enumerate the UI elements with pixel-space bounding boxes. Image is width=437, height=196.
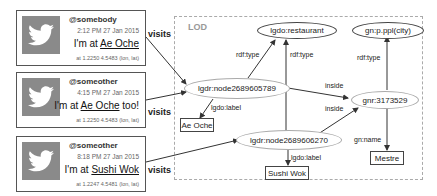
literal-sushi-wok: Sushi Wok [265,166,309,180]
edge-label-lgdo-label: lgdo:label [211,104,241,111]
edge-label-inside: inside [325,105,343,112]
literal-mestre: Mestre [370,151,404,165]
edge-label-visits: visits [148,29,171,39]
node-lgdr-node2689606270: lgdr:node2689606270 [236,130,342,150]
edge-label-gn-name: gn:name [354,136,381,143]
node-lgdr-node2689605789: lgdr:node2689605789 [184,78,290,99]
node-gnr-3173529: gnr:3173529 [351,91,419,109]
edge-label-inside: inside [325,82,343,89]
edge-label-rdf-type: rdf:type [290,51,313,58]
edge-label-rdf-type: rdf:type [357,54,380,61]
edge-label-lgdo-label: lgdo:label [291,154,321,161]
node-gn-ppl-city: gn:p.ppl(city) [352,22,424,39]
edge-label-rdf-type: rdf:type [236,51,259,58]
node-lgdo-restaurant: lgdo:restaurant [257,22,337,39]
literal-ae-oche: Ae Oche [180,118,214,132]
edge-label-visits: visits [148,107,171,117]
edge-label-visits: visits [148,165,171,175]
